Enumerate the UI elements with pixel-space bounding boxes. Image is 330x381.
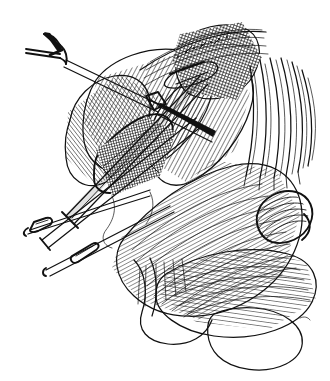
surgical-illustration — [0, 0, 330, 381]
figure-root — [0, 0, 330, 381]
